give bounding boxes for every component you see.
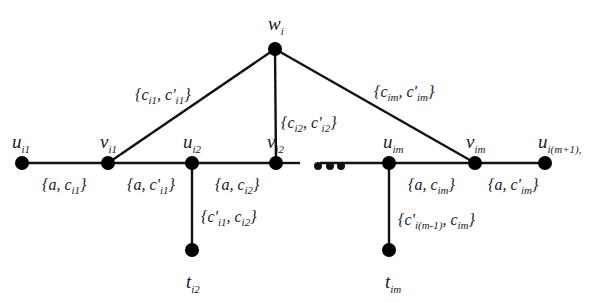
label-v-im: vim <box>466 131 485 155</box>
node-v-i2 <box>269 156 283 170</box>
label-u-im-plus-1: ui(m+1), <box>538 131 582 156</box>
node-u-im <box>382 156 396 170</box>
edge-label-u-im-v-im: {a, cim} <box>408 176 456 196</box>
node-u-im-plus-1 <box>538 156 552 170</box>
label-t-i2: ti2 <box>186 271 200 295</box>
edge-label-w-v-i2: {ci2, c'i2} <box>281 114 337 134</box>
label-u-i2: ui2 <box>183 131 202 155</box>
edge-w-v-im <box>275 49 475 163</box>
label-u-im: uim <box>383 131 404 155</box>
edge-label-v-i1-u-i2: {a, c'i1} <box>127 176 176 196</box>
graph-diagram: ui1 vi1 ui2 vi2 uim vim ui(m+1), wi ti2 … <box>0 0 599 303</box>
label-u-i1: ui1 <box>12 131 30 155</box>
node-v-im <box>468 156 482 170</box>
node-u-i2 <box>185 156 199 170</box>
node-t-im <box>382 243 396 257</box>
label-w-i: wi <box>268 13 284 37</box>
node-w-i <box>268 42 282 56</box>
edge-label-u-i2-v-i2: {a, ci2} <box>215 176 260 196</box>
ellipsis-dots <box>314 162 345 170</box>
label-t-im: tim <box>385 271 401 295</box>
label-v-i1: vi1 <box>100 131 117 155</box>
edge-label-u-i2-t-i2: {c'i1, ci2} <box>201 208 257 228</box>
edge-label-w-v-i1: {ci1, c'i1} <box>135 86 191 106</box>
edge-label-v-im-u-im-plus-1: {a, c'im} <box>488 176 539 196</box>
node-t-i2 <box>185 243 199 257</box>
node-u-i1 <box>15 156 29 170</box>
edge-label-u-im-t-im: {c'i(m-1), cim} <box>398 211 476 232</box>
edge-label-w-v-im: {cim, c'im} <box>374 83 435 103</box>
node-v-i1 <box>101 156 115 170</box>
edge-label-u-i1-v-i1: {a, ci1} <box>42 176 87 196</box>
